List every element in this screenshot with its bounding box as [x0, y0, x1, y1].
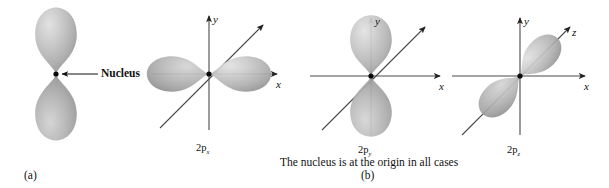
orbital-lobe-upper [35, 7, 77, 74]
orbital-label-2pz-text: 2p [507, 144, 518, 155]
axis-label-y: y [524, 16, 529, 27]
nucleus-dot [53, 71, 58, 76]
orbital-lobe-lower [35, 74, 77, 141]
axis-label-z: z [572, 27, 576, 38]
orbital-label-2px-text: 2p [196, 142, 207, 153]
orbital-label-2pz: 2pz [507, 145, 520, 158]
orbital-label-2px: 2px [196, 143, 209, 156]
orbital-label-2px-subscript: x [207, 148, 210, 155]
axis-label-y: y [213, 14, 218, 25]
axis-label-x: x [276, 79, 281, 90]
axis-label-y: y [375, 16, 380, 27]
nucleus-label: Nucleus [101, 68, 140, 80]
2p-z-orbital [452, 18, 585, 135]
axis-label-x: x [439, 81, 444, 92]
axis-label-x: x [584, 81, 589, 92]
orbital-lobe-left [147, 56, 209, 91]
orbital-lobe-right [209, 56, 271, 91]
panel-label-b: (b) [361, 170, 374, 182]
generic-p-orbital [35, 7, 98, 140]
figure-caption: The nucleus is at the origin in all case… [280, 157, 458, 169]
orbital-label-2pz-subscript: z [518, 150, 521, 157]
nucleus-dot [206, 71, 211, 76]
2p-y-orbital [310, 15, 440, 136]
2p-x-orbital [147, 16, 277, 130]
nucleus-dot [368, 73, 373, 78]
p-orbital-figure: Nucleus y x y x y x z 2px 2py 2pz The nu… [0, 0, 609, 188]
orbital-lobe-lower [350, 76, 392, 137]
orbital-label-2py-text: 2p [358, 144, 369, 155]
nucleus-dot [517, 73, 522, 78]
panel-label-a: (a) [24, 170, 37, 182]
